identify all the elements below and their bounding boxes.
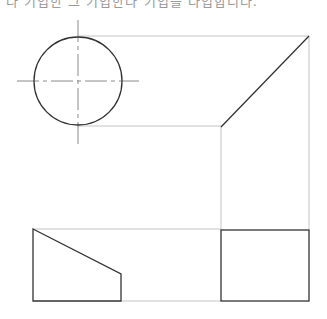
miter-line — [221, 36, 309, 127]
side-view-rectangle — [221, 230, 309, 301]
orthographic-drawing — [0, 0, 327, 319]
front-view-trapezoid — [33, 229, 121, 301]
projection-lines — [33, 36, 309, 301]
